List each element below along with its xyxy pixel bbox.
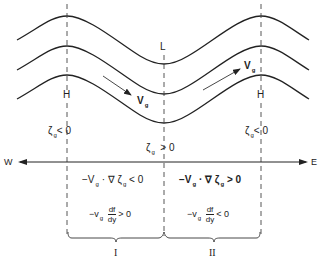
west-arrowhead-icon xyxy=(18,159,27,165)
streamline-bottom xyxy=(17,75,309,123)
streamlines xyxy=(17,16,309,123)
axis-dashed-lines xyxy=(67,4,261,236)
vorticity-label-right: ζg< 0 xyxy=(245,126,268,137)
label-high-left: H xyxy=(63,90,70,100)
region-II-fraction: dfdy xyxy=(206,205,215,224)
region-I-beta-expression: −vg dfdy> 0 xyxy=(89,205,131,224)
east-arrowhead-icon xyxy=(299,159,308,165)
axis-label-east: E xyxy=(311,157,317,167)
region-II-label: II xyxy=(209,248,216,258)
region-braces xyxy=(68,232,260,242)
wind-label-left: Vg xyxy=(137,96,148,107)
region-I-advection-expression: −Vg · ∇ ζg < 0 xyxy=(82,175,143,186)
axis-label-west: W xyxy=(4,157,13,167)
region-I-fraction: dfdy xyxy=(108,205,117,224)
streamline-top xyxy=(17,16,309,64)
region-I-label: I xyxy=(114,248,117,258)
region-II-beta-expression: −vg dfdy< 0 xyxy=(187,205,229,224)
label-high-right: H xyxy=(257,90,264,100)
label-low-trough: L xyxy=(160,42,166,52)
brace-region-II xyxy=(164,232,260,242)
region-II-advection-expression: −Vg · ∇ ζg > 0 xyxy=(179,175,241,186)
vorticity-label-center: ζg > 0 xyxy=(146,143,175,154)
wind-label-right: Vg xyxy=(244,61,255,72)
brace-region-I xyxy=(68,232,164,242)
vorticity-label-left: ζg< 0 xyxy=(48,126,71,137)
streamline-middle xyxy=(17,46,309,94)
